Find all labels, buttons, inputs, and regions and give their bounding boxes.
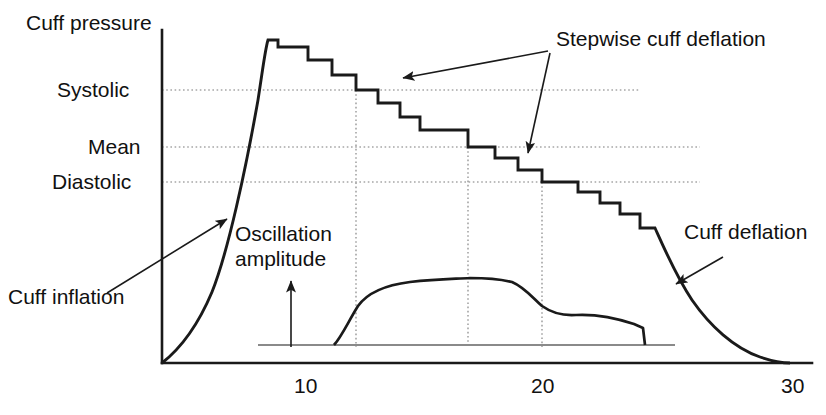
- y-axis-title: Cuff pressure: [26, 12, 152, 33]
- cuff-deflation-label: Cuff deflation: [684, 221, 807, 242]
- reference-gridlines: [162, 90, 700, 182]
- cuff-deflation-arrow: [676, 257, 723, 284]
- x-tick-30: 30: [781, 375, 804, 396]
- stepwise-cuff-deflation-label: Stepwise cuff deflation: [556, 28, 766, 49]
- axes: [162, 30, 812, 363]
- systolic-label: Systolic: [57, 79, 129, 100]
- callout-arrows: [107, 51, 723, 347]
- stepwise-cuff-deflation-arrow-right: [528, 53, 550, 153]
- x-tick-10: 10: [294, 375, 317, 396]
- figure-canvas: [0, 0, 826, 415]
- oscillation-amplitude-label: Oscillation amplitude: [235, 222, 332, 272]
- mean-label: Mean: [88, 136, 141, 157]
- cuff-inflation-arrow: [107, 219, 227, 293]
- x-tick-20: 20: [531, 375, 554, 396]
- cuff-pressure-trace: [162, 40, 790, 363]
- diastolic-label: Diastolic: [52, 171, 131, 192]
- cuff-inflation-label: Cuff inflation: [8, 286, 124, 307]
- stepwise-cuff-deflation-arrow-left: [403, 51, 548, 78]
- oscillation-amplitude-envelope: [334, 278, 645, 345]
- cuff-pressure-figure: Cuff pressure Systolic Mean Diastolic Cu…: [0, 0, 826, 415]
